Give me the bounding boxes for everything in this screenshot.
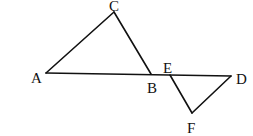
label-f: F — [187, 120, 195, 136]
label-d: D — [236, 71, 247, 87]
label-e: E — [163, 60, 172, 76]
segment-ad — [46, 73, 231, 76]
segment-ef — [170, 75, 192, 113]
label-a: A — [31, 70, 42, 86]
label-c: C — [109, 0, 119, 14]
geometry-diagram: C A B E D F — [0, 0, 253, 136]
segment-cb — [114, 12, 151, 74]
label-b: B — [147, 80, 157, 96]
segment-fd — [192, 76, 231, 113]
segment-ac — [46, 12, 114, 73]
